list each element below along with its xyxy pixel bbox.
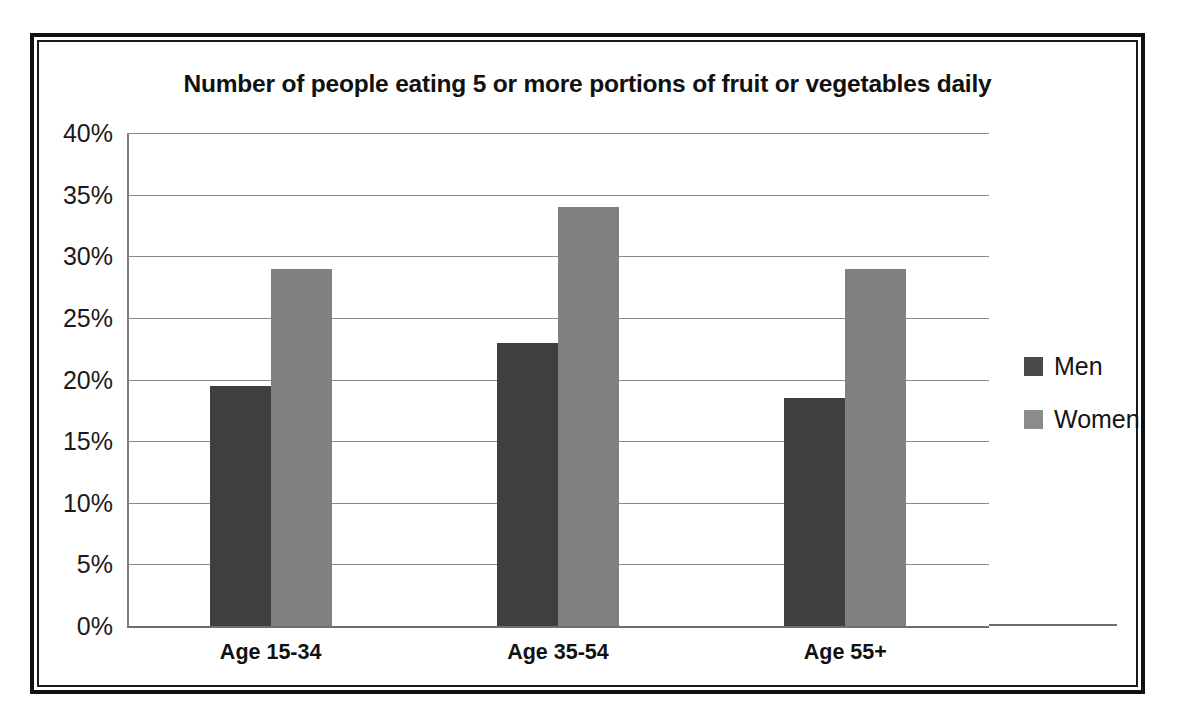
chart-canvas: Number of people eating 5 or more portio…	[39, 42, 1136, 685]
legend-label-women: Women	[1054, 405, 1140, 434]
bar-women-0[interactable]	[271, 269, 332, 626]
plot-area: 40%35%30%25%20%15%10%5%0% Age 15-34Age 3…	[127, 133, 989, 626]
y-tick-label-40pct: 40%	[63, 119, 113, 148]
chart-frame-inner-border: Number of people eating 5 or more portio…	[37, 40, 1138, 687]
chart-legend: MenWomen	[1024, 352, 1140, 458]
y-tick-label-0pct: 0%	[77, 612, 113, 641]
legend-swatch-icon-women	[1024, 410, 1043, 429]
bar-group: Age 15-34	[127, 133, 414, 626]
x-axis-extension-line	[989, 624, 1117, 626]
bar-women-1[interactable]	[558, 207, 619, 626]
bar-group: Age 35-54	[414, 133, 701, 626]
bar-men-1[interactable]	[497, 343, 558, 626]
chart-title: Number of people eating 5 or more portio…	[39, 70, 1136, 98]
legend-label-men: Men	[1054, 352, 1103, 381]
chart-frame: Number of people eating 5 or more portio…	[30, 33, 1145, 694]
bar-women-2[interactable]	[845, 269, 906, 626]
bar-men-2[interactable]	[784, 398, 845, 626]
x-tick-label-0: Age 15-34	[127, 640, 414, 665]
y-tick-label-15pct: 15%	[63, 427, 113, 456]
y-tick-label-30pct: 30%	[63, 242, 113, 271]
y-tick-label-25pct: 25%	[63, 303, 113, 332]
bar-men-0[interactable]	[210, 386, 271, 626]
y-tick-label-20pct: 20%	[63, 365, 113, 394]
y-tick-label-35pct: 35%	[63, 180, 113, 209]
bar-group: Age 55+	[702, 133, 989, 626]
y-tick-label-5pct: 5%	[77, 550, 113, 579]
legend-item-women[interactable]: Women	[1024, 405, 1140, 434]
legend-item-men[interactable]: Men	[1024, 352, 1140, 381]
x-tick-label-2: Age 55+	[702, 640, 989, 665]
legend-swatch-icon-men	[1024, 357, 1043, 376]
y-tick-label-10pct: 10%	[63, 488, 113, 517]
gridline-0pct	[127, 626, 989, 628]
x-tick-label-1: Age 35-54	[414, 640, 701, 665]
